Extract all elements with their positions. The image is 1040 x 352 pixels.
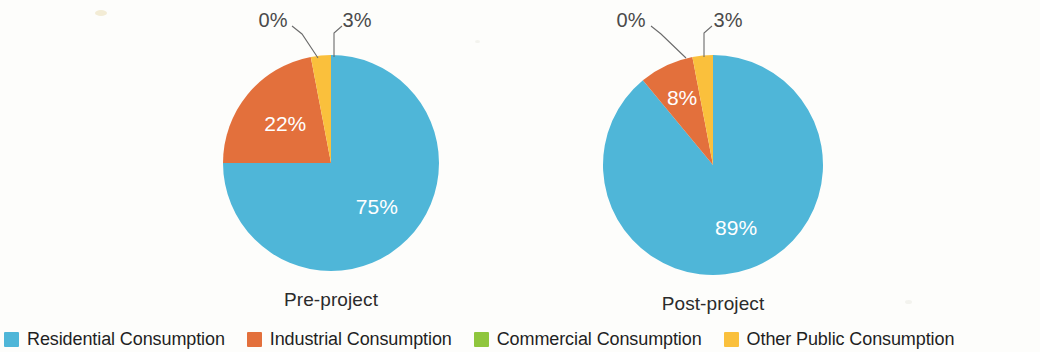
legend-item[interactable]: Residential Consumption xyxy=(4,329,225,350)
legend-item[interactable]: Industrial Consumption xyxy=(247,329,452,350)
pie-slice xyxy=(603,55,823,275)
scan-artifact xyxy=(475,40,480,43)
pie-slice-label: 22% xyxy=(264,112,306,135)
legend-swatch-icon xyxy=(4,332,19,347)
pie-chart-figure: 75%22%0%3%89%8%0%3% Pre-projectPost-proj… xyxy=(0,0,1040,352)
pie-callout-label: 3% xyxy=(343,9,372,31)
pie-slice xyxy=(643,57,713,165)
pie-svg: 89%8%0%3% xyxy=(0,0,1040,320)
pie-slice xyxy=(223,55,439,271)
pie-slice-label: 75% xyxy=(356,195,398,218)
pie-caption-post-project: Post-project xyxy=(593,293,833,315)
legend-swatch-icon xyxy=(724,332,739,347)
pie-slice-label: 8% xyxy=(667,86,697,109)
legend-label: Other Public Consumption xyxy=(747,329,955,350)
pie-slice xyxy=(692,55,713,165)
pie-svg: 75%22%0%3% xyxy=(0,0,1040,320)
pie-caption-pre-project: Pre-project xyxy=(211,289,451,311)
chart-legend: Residential ConsumptionIndustrial Consum… xyxy=(0,326,1040,352)
callout-leader-line xyxy=(334,26,342,57)
scan-artifact xyxy=(95,10,107,16)
pie-slice xyxy=(223,57,331,163)
legend-label: Residential Consumption xyxy=(27,329,225,350)
legend-swatch-icon xyxy=(247,332,262,347)
legend-item[interactable]: Other Public Consumption xyxy=(724,329,955,350)
callout-leader-line xyxy=(704,26,712,57)
pie-callout-label: 3% xyxy=(714,9,743,31)
legend-swatch-icon xyxy=(474,332,489,347)
pie-callout-label: 0% xyxy=(617,9,646,31)
legend-label: Commercial Consumption xyxy=(497,329,702,350)
pie-callout-label: 0% xyxy=(259,9,288,31)
scan-artifact xyxy=(905,300,912,304)
pie-chart-pre-project: 75%22%0%3% xyxy=(0,0,1040,320)
pie-slice-label: 89% xyxy=(715,216,757,239)
legend-label: Industrial Consumption xyxy=(270,329,452,350)
legend-item[interactable]: Commercial Consumption xyxy=(474,329,702,350)
pie-chart-post-project: 89%8%0%3% xyxy=(0,0,1040,320)
callout-leader-line xyxy=(292,26,318,58)
callout-leader-line xyxy=(651,26,686,58)
pie-slice xyxy=(311,55,331,163)
